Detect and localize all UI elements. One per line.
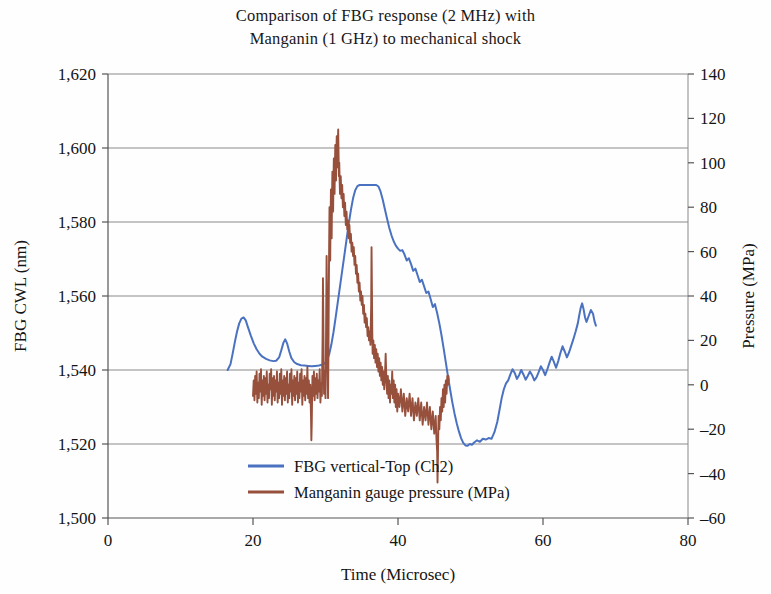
y-axis-right-tick-label: 80 (700, 198, 717, 217)
y-axis-left-tick-label: 1,560 (58, 287, 96, 306)
chart-figure: Comparison of FBG response (2 MHz) with … (0, 0, 771, 594)
y-axis-left-tick-label: 1,580 (58, 213, 96, 232)
y-axis-right-tick-label: –20 (699, 420, 726, 439)
y-axis-right-tick-label: 100 (700, 154, 726, 173)
y-axis-left-tick-label: 1,620 (58, 65, 96, 84)
y-axis-right-tick-label: –40 (699, 465, 726, 484)
y-axis-right-title: Pressure (MPa) (739, 243, 758, 348)
x-axis-tick-label: 80 (680, 531, 697, 550)
y-axis-right-tick-label: 140 (700, 65, 726, 84)
x-axis-ticks: 020406080 (104, 518, 697, 550)
y-axis-left-tick-label: 1,600 (58, 139, 96, 158)
x-axis-tick-label: 0 (104, 531, 113, 550)
y-axis-left-tick-label: 1,520 (58, 435, 96, 454)
legend-label-2: Manganin gauge pressure (MPa) (294, 483, 510, 502)
y-axis-left-ticks: 1,5001,5201,5401,5601,5801,6001,620 (58, 65, 108, 528)
axis-labels-layer: Time (Microsec)FBG CWL (nm)Pressure (MPa… (11, 240, 758, 584)
x-axis-title: Time (Microsec) (341, 565, 455, 584)
y-axis-right-tick-label: 120 (700, 109, 726, 128)
y-axis-right-tick-label: 20 (700, 331, 717, 350)
chart-legend: FBG vertical-Top (Ch2)Manganin gauge pre… (248, 457, 510, 502)
y-axis-right-tick-label: 40 (700, 287, 717, 306)
y-axis-left-title: FBG CWL (nm) (11, 240, 30, 352)
x-axis-tick-label: 40 (390, 531, 407, 550)
plot-svg: 020406080 1,5001,5201,5401,5601,5801,600… (0, 0, 771, 594)
data-series-layer (228, 130, 596, 483)
legend-label-1: FBG vertical-Top (Ch2) (294, 457, 453, 476)
x-axis-tick-label: 20 (245, 531, 262, 550)
y-axis-left-tick-label: 1,500 (58, 509, 96, 528)
x-axis-tick-label: 60 (535, 531, 552, 550)
y-axis-right-tick-label: –60 (699, 509, 726, 528)
y-axis-left-tick-label: 1,540 (58, 361, 96, 380)
y-axis-right-tick-label: 0 (700, 376, 709, 395)
data-series-line-2 (253, 130, 449, 483)
y-axis-right-ticks: –60–40–20020406080100120140 (688, 65, 726, 528)
y-axis-right-tick-label: 60 (700, 243, 717, 262)
